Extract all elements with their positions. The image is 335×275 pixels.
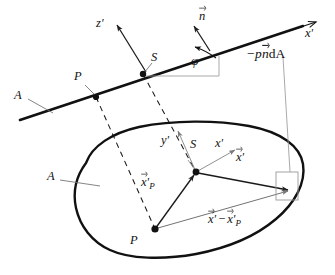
label-x-prime-body-axis: x′ [215, 137, 223, 150]
label-z-prime-axis: z′ [96, 17, 103, 30]
label-point-P-upper: P [74, 70, 82, 83]
leader-line-point-P-upper [85, 85, 95, 95]
point-marker-S-upper [140, 71, 146, 77]
leader-line-pressure-force [283, 57, 290, 172]
label-vector-difference: x′− x′P [208, 212, 241, 228]
label-vector-xP: x′P [141, 175, 155, 191]
vector-xP-arrow [155, 175, 194, 229]
projection-line-P [96, 97, 155, 229]
point-marker-P-upper [93, 94, 99, 100]
label-surface-A-upper: A [14, 89, 22, 102]
z-prime-axis-arrow [117, 25, 146, 72]
label-pressure-force: −p ndA [246, 46, 285, 61]
label-point-S-lower: S [190, 138, 196, 151]
label-surface-A-lower: A [47, 170, 55, 183]
label-point-S-upper: S [151, 51, 157, 64]
label-angle-phi: φ [191, 54, 198, 68]
label-point-P-lower: P [130, 234, 138, 247]
cutting-plane-line [20, 26, 303, 120]
leader-line-point-S-upper [144, 63, 152, 73]
point-marker-P-lower [151, 225, 158, 232]
figure-container: z′ n x′ −p ndA φ [0, 0, 335, 275]
leader-line-surface-A-upper [28, 99, 53, 113]
label-vector-x: x′ [236, 150, 244, 164]
label-x-prime-axis: x′ [305, 27, 313, 40]
x-prime-body-axis-arrow [196, 150, 235, 172]
label-y-prime-body-axis: y′ [161, 134, 169, 147]
label-normal-vector: n [199, 9, 205, 23]
leader-line-surface-A-lower [60, 180, 100, 186]
vector-x-arrow [198, 173, 288, 190]
point-marker-S-lower [193, 169, 200, 176]
